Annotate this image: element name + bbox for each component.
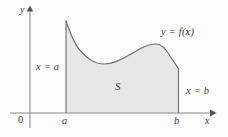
region-label-s: S	[115, 81, 121, 92]
x-tick-label-b: b	[174, 116, 179, 127]
figure-canvas	[0, 0, 228, 137]
x-axis-arrowhead	[210, 110, 217, 117]
x-axis-label: x	[205, 116, 210, 126]
y-axis-arrowhead	[27, 6, 34, 12]
origin-label: 0	[18, 115, 23, 126]
left-boundary-label: x = a	[36, 62, 59, 73]
curve-label: y = f(x)	[161, 27, 194, 38]
y-axis-label: y	[20, 5, 25, 15]
right-boundary-label: x = b	[186, 86, 209, 97]
integral-area-figure: y x 0 a b x = a x = b S y = f(x)	[0, 0, 228, 137]
x-tick-label-a: a	[62, 116, 67, 127]
